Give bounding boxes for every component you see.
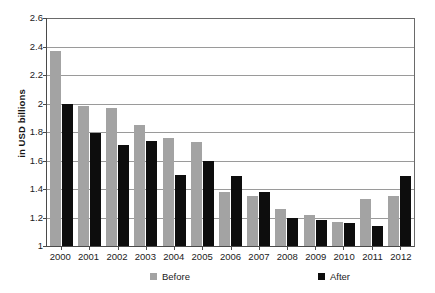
bar-group — [216, 18, 244, 246]
x-axis-tick-mark — [174, 246, 175, 250]
bar-before-2001[interactable] — [78, 106, 89, 246]
legend-label-before: Before — [162, 271, 190, 282]
bar-after-2011[interactable] — [372, 226, 383, 246]
x-axis-tick-label-2012: 2012 — [387, 251, 415, 262]
bar-group — [301, 18, 329, 246]
x-axis-tick-mark — [259, 246, 260, 250]
bar-before-2007[interactable] — [247, 196, 258, 246]
bar-group — [386, 18, 414, 246]
y-axis-tick-label: 1.2 — [7, 212, 43, 223]
bar-group — [103, 18, 131, 246]
x-axis-tick-label-2002: 2002 — [103, 251, 131, 262]
bar-before-2009[interactable] — [304, 215, 315, 246]
x-axis-tick-labels: 2000200120022003200420052006200720082009… — [46, 251, 415, 262]
bar-before-2010[interactable] — [332, 222, 343, 246]
x-axis-tick-label-2008: 2008 — [273, 251, 301, 262]
y-axis-tick-label: 2 — [7, 98, 43, 109]
x-axis-tick-label-2010: 2010 — [330, 251, 358, 262]
x-axis-tick-mark — [202, 246, 203, 250]
y-axis-tick-mark — [43, 18, 47, 19]
bar-group — [358, 18, 386, 246]
bar-group — [188, 18, 216, 246]
bar-after-2010[interactable] — [344, 223, 355, 246]
legend-swatch-before — [150, 273, 157, 280]
bar-before-2011[interactable] — [360, 199, 371, 246]
chart-legend: Before After — [150, 271, 350, 282]
x-axis-tick-label-2001: 2001 — [74, 251, 102, 262]
bar-before-2012[interactable] — [388, 196, 399, 246]
bar-after-2001[interactable] — [90, 133, 101, 246]
bar-after-2008[interactable] — [287, 218, 298, 247]
x-axis-tick-mark — [287, 246, 288, 250]
x-axis-tick-mark — [315, 246, 316, 250]
bar-before-2000[interactable] — [50, 51, 61, 246]
x-axis-tick-label-2003: 2003 — [131, 251, 159, 262]
x-axis-tick-mark — [89, 246, 90, 250]
bar-group — [245, 18, 273, 246]
y-axis-tick-mark — [43, 104, 47, 105]
y-axis-tick-label: 2.4 — [7, 41, 43, 52]
plot-area — [46, 18, 415, 247]
y-axis-tick-label: 1 — [7, 240, 43, 251]
x-axis-tick-mark — [146, 246, 147, 250]
y-axis-tick-label: 1.6 — [7, 155, 43, 166]
y-axis-tick-mark — [43, 47, 47, 48]
y-axis-tick-label: 1.8 — [7, 126, 43, 137]
x-axis-tick-label-2009: 2009 — [302, 251, 330, 262]
bar-after-2003[interactable] — [146, 141, 157, 246]
bar-before-2002[interactable] — [106, 108, 117, 246]
bar-after-2005[interactable] — [203, 161, 214, 247]
bar-group — [329, 18, 357, 246]
y-axis-tick-mark — [43, 161, 47, 162]
bar-after-2000[interactable] — [62, 104, 73, 247]
x-axis-tick-mark — [343, 246, 344, 250]
y-axis-tick-label: 1.4 — [7, 183, 43, 194]
bar-before-2008[interactable] — [275, 209, 286, 246]
bar-group — [160, 18, 188, 246]
bar-after-2012[interactable] — [400, 176, 411, 246]
bar-before-2006[interactable] — [219, 192, 230, 246]
x-axis-tick-mark — [231, 246, 232, 250]
x-axis-tick-mark — [118, 246, 119, 250]
y-axis-tick-label: 2.6 — [7, 12, 43, 23]
legend-entry-after: After — [318, 271, 350, 282]
y-axis-tick-mark — [43, 75, 47, 76]
bar-group — [47, 18, 75, 246]
y-axis-tick-mark — [43, 189, 47, 190]
x-axis-tick-mark — [372, 246, 373, 250]
x-axis-tick-mark — [400, 246, 401, 250]
x-axis-tick-label-2000: 2000 — [46, 251, 74, 262]
x-axis-tick-label-2006: 2006 — [216, 251, 244, 262]
legend-entry-before: Before — [150, 271, 190, 282]
y-axis-tick-mark — [43, 246, 47, 247]
x-axis-tick-mark — [61, 246, 62, 250]
x-axis-tick-label-2007: 2007 — [245, 251, 273, 262]
bar-before-2005[interactable] — [191, 142, 202, 246]
bar-after-2002[interactable] — [118, 145, 129, 246]
bar-before-2003[interactable] — [134, 125, 145, 246]
y-axis-tick-label: 2.2 — [7, 69, 43, 80]
bar-after-2006[interactable] — [231, 176, 242, 246]
bar-after-2009[interactable] — [316, 220, 327, 246]
bar-group — [273, 18, 301, 246]
y-axis-tick-mark — [43, 218, 47, 219]
bar-before-2004[interactable] — [163, 138, 174, 246]
bar-series-container — [47, 18, 414, 246]
x-axis-tick-label-2004: 2004 — [160, 251, 188, 262]
bar-group — [75, 18, 103, 246]
y-axis-tick-mark — [43, 132, 47, 133]
bar-after-2007[interactable] — [259, 192, 270, 246]
legend-swatch-after — [318, 273, 325, 280]
legend-label-after: After — [330, 271, 350, 282]
x-axis-tick-label-2011: 2011 — [358, 251, 386, 262]
x-axis-tick-label-2005: 2005 — [188, 251, 216, 262]
bar-group — [132, 18, 160, 246]
bar-chart-figure: in USD billions 2.62.42.221.81.61.41.21 … — [0, 0, 435, 293]
bar-after-2004[interactable] — [175, 175, 186, 246]
